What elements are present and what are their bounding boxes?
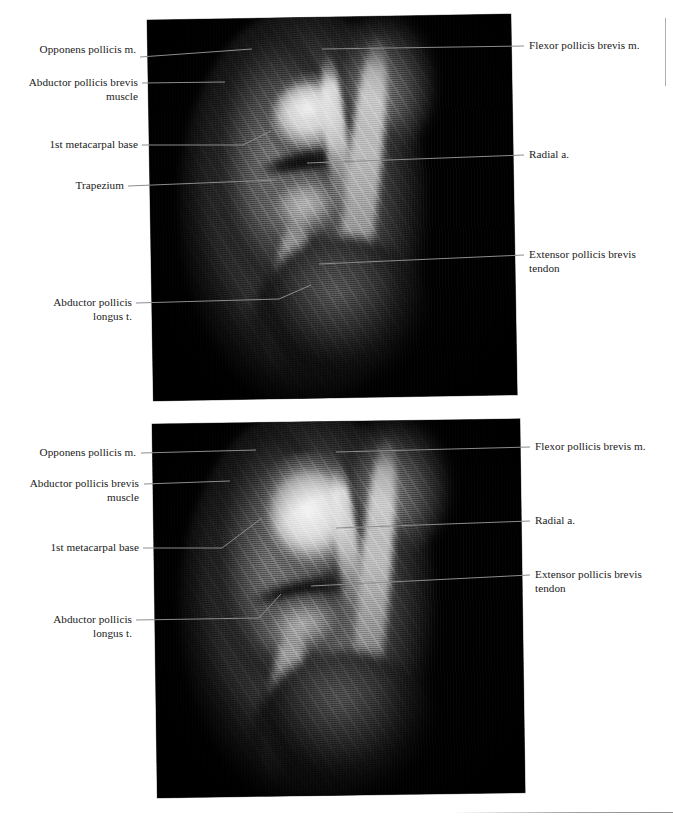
label-abductor-pollicis-brevis-top: Abductor pollicis brevis muscle (0, 76, 138, 103)
label-flexor-pollicis-brevis-m-top: Flexor pollicis brevis m. (529, 39, 671, 53)
page-edge-artifact-vertical (665, 18, 666, 86)
label-radial-a-bottom: Radial a. (535, 514, 635, 528)
label-abductor-pollicis-longus-bottom: Abductor pollicis longus t. (0, 613, 132, 640)
label-abductor-pollicis-longus-top: Abductor pollicis longus t. (0, 296, 132, 323)
label-opponens-pollicis-m-top: Opponens pollicis m. (0, 43, 136, 57)
mri-panel-bottom (152, 419, 525, 798)
mri-image-bottom (152, 419, 525, 798)
label-trapezium-top: Trapezium (0, 179, 124, 193)
label-extensor-pollicis-brevis-tendon-top: Extensor pollicis brevis tendon (529, 248, 669, 275)
label-flexor-pollicis-brevis-m-bottom: Flexor pollicis brevis m. (535, 440, 673, 454)
label-extensor-pollicis-brevis-tendon-bottom: Extensor pollicis brevis tendon (535, 568, 673, 595)
page-edge-artifact-horizontal (452, 812, 673, 813)
label-first-metacarpal-base-top: 1st metacarpal base (0, 138, 138, 152)
anatomy-plate: Opponens pollicis m. Abductor pollicis b… (0, 0, 673, 820)
label-opponens-pollicis-m-bottom: Opponens pollicis m. (0, 446, 136, 460)
label-first-metacarpal-base-bottom: 1st metacarpal base (0, 541, 139, 555)
mri-image-top (147, 14, 517, 401)
label-radial-a-top: Radial a. (529, 148, 629, 162)
label-abductor-pollicis-brevis-bottom: Abductor pollicis brevis muscle (0, 477, 139, 504)
mri-panel-top (147, 14, 517, 401)
